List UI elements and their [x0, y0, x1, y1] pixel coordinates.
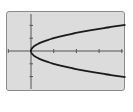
parabola-plot — [0, 0, 133, 112]
axes — [8, 14, 123, 89]
upper-branch-curve — [31, 25, 125, 51]
lower-branch-curve — [31, 51, 125, 77]
